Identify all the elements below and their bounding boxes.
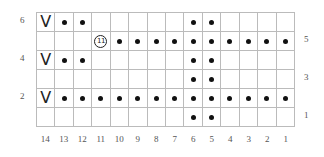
- purl-dot-icon: [209, 77, 214, 82]
- column-label: 4: [221, 134, 239, 144]
- column-label: 3: [240, 134, 258, 144]
- chart-cell: [240, 108, 258, 127]
- chart-cell: [37, 32, 55, 51]
- chart-cell: [148, 108, 166, 127]
- slip-stitch-icon: V: [40, 14, 51, 30]
- chart-cell: [203, 32, 221, 51]
- chart-cell: [258, 32, 276, 51]
- chart-cell: [166, 108, 184, 127]
- chart-cell: [184, 32, 202, 51]
- purl-dot-icon: [62, 58, 67, 63]
- purl-dot-icon: [191, 58, 196, 63]
- chart-cell: [129, 89, 147, 108]
- chart-cell: [203, 13, 221, 32]
- column-label: 13: [55, 134, 73, 144]
- chart-cell: [74, 51, 92, 70]
- chart-cell: [74, 70, 92, 89]
- column-label: 6: [184, 134, 202, 144]
- chart-cell: [74, 108, 92, 127]
- purl-dot-icon: [227, 96, 232, 101]
- chart-cell: [111, 70, 129, 89]
- row-label-6: 6: [20, 15, 25, 25]
- chart-cell: [92, 89, 110, 108]
- chart-cell: [203, 108, 221, 127]
- chart-cell: [55, 70, 73, 89]
- purl-dot-icon: [283, 39, 288, 44]
- chart-cell: 11: [92, 32, 110, 51]
- row-label-2: 2: [20, 91, 25, 101]
- chart-cell: [92, 13, 110, 32]
- purl-dot-icon: [209, 96, 214, 101]
- circled-eleven-icon: 11: [94, 35, 107, 48]
- chart-cell: [111, 32, 129, 51]
- chart-cell: [203, 89, 221, 108]
- chart-cell: [184, 51, 202, 70]
- slip-stitch-icon: V: [40, 52, 51, 68]
- chart-cell: [129, 108, 147, 127]
- chart-cell: [166, 13, 184, 32]
- chart-cell: [37, 70, 55, 89]
- purl-dot-icon: [191, 77, 196, 82]
- purl-dot-icon: [172, 96, 177, 101]
- column-label: 8: [147, 134, 165, 144]
- purl-dot-icon: [117, 96, 122, 101]
- column-label: 12: [73, 134, 91, 144]
- chart-cell: [184, 70, 202, 89]
- chart-cell: [55, 13, 73, 32]
- chart-cell: [221, 89, 239, 108]
- chart-cell: [277, 32, 295, 51]
- chart-cell: [55, 89, 73, 108]
- purl-dot-icon: [264, 96, 269, 101]
- chart-cell: [166, 51, 184, 70]
- chart-cell: [184, 108, 202, 127]
- row-label-1: 1: [304, 110, 309, 120]
- purl-dot-icon: [172, 39, 177, 44]
- purl-dot-icon: [209, 58, 214, 63]
- purl-dot-icon: [98, 96, 103, 101]
- chart-cell: [166, 32, 184, 51]
- purl-dot-icon: [191, 96, 196, 101]
- purl-dot-icon: [246, 96, 251, 101]
- purl-dot-icon: [154, 96, 159, 101]
- chart-cell: [92, 51, 110, 70]
- chart-cell: [148, 13, 166, 32]
- chart-cell: [240, 89, 258, 108]
- column-label: 5: [203, 134, 221, 144]
- chart-cell: [37, 108, 55, 127]
- chart-cell: V: [37, 89, 55, 108]
- purl-dot-icon: [135, 96, 140, 101]
- chart-cell: [55, 108, 73, 127]
- chart-cell: [240, 32, 258, 51]
- chart-cell: [240, 70, 258, 89]
- column-label: 2: [258, 134, 276, 144]
- chart-cell: [111, 89, 129, 108]
- chart-cell: [148, 89, 166, 108]
- chart-cell: [203, 70, 221, 89]
- chart-cell: [129, 13, 147, 32]
- purl-dot-icon: [191, 39, 196, 44]
- chart-cell: [184, 89, 202, 108]
- column-label: 7: [166, 134, 184, 144]
- chart-cell: [277, 70, 295, 89]
- purl-dot-icon: [154, 39, 159, 44]
- chart-cell: [166, 89, 184, 108]
- chart-cell: [148, 51, 166, 70]
- purl-dot-icon: [135, 39, 140, 44]
- slip-stitch-icon: V: [40, 90, 51, 106]
- chart-cell: [221, 108, 239, 127]
- column-label: 11: [92, 134, 110, 144]
- purl-dot-icon: [209, 115, 214, 120]
- column-label: 14: [36, 134, 54, 144]
- column-label: 1: [277, 134, 295, 144]
- chart-cell: [277, 89, 295, 108]
- chart-cell: [258, 70, 276, 89]
- purl-dot-icon: [264, 39, 269, 44]
- purl-dot-icon: [191, 20, 196, 25]
- column-label: 10: [110, 134, 128, 144]
- chart-cell: [129, 70, 147, 89]
- column-label: 9: [129, 134, 147, 144]
- chart-cell: [277, 108, 295, 127]
- chart-cell: [111, 51, 129, 70]
- chart-cell: [277, 13, 295, 32]
- chart-cell: [221, 51, 239, 70]
